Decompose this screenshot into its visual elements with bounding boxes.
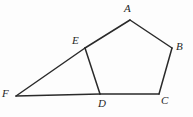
geometry-figure: A B C D E F: [0, 0, 193, 117]
vertex-label-B: B: [176, 41, 183, 52]
vertex-label-F: F: [2, 88, 9, 99]
segment-FE: [16, 48, 85, 96]
vertex-label-E: E: [72, 35, 79, 46]
segment-AB: [130, 20, 172, 48]
segment-BC: [159, 48, 172, 94]
segment-EA: [85, 20, 130, 48]
vertex-label-A: A: [124, 3, 131, 14]
vertex-label-D: D: [98, 98, 106, 109]
segments-group: [16, 20, 172, 96]
segment-ED: [85, 48, 100, 94]
segment-DF: [16, 94, 100, 96]
vertex-label-C: C: [161, 95, 168, 106]
